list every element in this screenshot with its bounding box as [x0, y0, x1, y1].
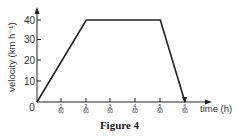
svg-text:60: 60	[83, 108, 89, 114]
x-tick-label: 6 60	[182, 103, 188, 115]
y-tick-label: 10	[24, 76, 36, 87]
x-ticks	[61, 98, 185, 102]
velocity-series-line	[37, 20, 185, 102]
origin-label: 0	[29, 102, 35, 113]
y-axis-label: velocity (km h⁻¹)	[6, 22, 17, 91]
svg-text:60: 60	[132, 108, 138, 114]
x-tick-label: 5 60	[157, 103, 163, 115]
x-tick-label: 2 60	[83, 103, 89, 115]
y-axis-arrow-icon	[35, 7, 40, 14]
x-tick-label: 3 60	[107, 103, 113, 115]
svg-text:60: 60	[157, 108, 163, 114]
y-tick-label: 30	[24, 34, 36, 45]
y-tick-label: 20	[24, 55, 36, 66]
y-ticks: 10 20 30 40	[24, 15, 41, 87]
svg-text:60: 60	[107, 108, 113, 114]
y-tick-label: 40	[24, 15, 36, 26]
velocity-time-chart: 10 20 30 40 0 1 60 2 60 3 60 4 60 5 60	[0, 0, 239, 137]
x-axis-label: time (h)	[200, 103, 232, 114]
x-tick-label: 4 60	[132, 103, 138, 115]
svg-text:60: 60	[58, 108, 64, 114]
x-tick-label: 1 60	[58, 103, 64, 115]
figure-caption: Figure 4	[0, 119, 239, 131]
svg-text:60: 60	[182, 108, 188, 114]
